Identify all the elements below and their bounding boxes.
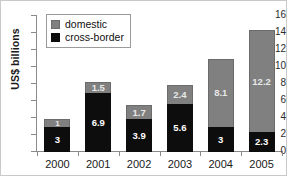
x-tick-mark	[200, 151, 201, 156]
bar-segment-domestic: 2.4	[167, 85, 193, 105]
chart-container: US$ billions 0246810121416 2000200120022…	[0, 0, 287, 176]
y-tick-mark	[31, 32, 36, 33]
x-tick-mark	[241, 151, 242, 156]
bar-value-label: 1.5	[92, 83, 105, 93]
x-tick-label: 2005	[237, 158, 287, 170]
bar-value-label: 2.3	[255, 137, 268, 147]
x-tick-mark	[282, 151, 283, 156]
legend-label-cross-border: cross-border	[65, 32, 124, 43]
bar-segment-cross-border: 5.6	[167, 104, 193, 152]
bar-value-label: 2.4	[173, 90, 186, 100]
bar-value-label: 5.6	[173, 123, 186, 133]
bar-stack: 2.45.6	[167, 85, 193, 151]
bar-value-label: 1.7	[132, 108, 145, 118]
bar-segment-domestic: 1.7	[126, 105, 152, 119]
bar-segment-cross-border: 3	[208, 127, 234, 153]
y-tick-mark	[31, 100, 36, 101]
y-tick-mark	[31, 66, 36, 67]
legend-swatch-cross-border-icon	[51, 33, 60, 42]
bar-segment-cross-border: 3	[44, 127, 70, 153]
bar-value-label: 3	[55, 135, 60, 145]
y-tick-mark	[31, 49, 36, 50]
y-axis-title: US$ billions	[9, 7, 21, 111]
legend-label-domestic: domestic	[65, 19, 107, 30]
y-tick-mark	[31, 83, 36, 84]
bar-stack: 1.73.9	[126, 105, 152, 151]
legend-swatch-domestic-icon	[51, 20, 60, 29]
bar-stack: 8.13	[208, 59, 234, 151]
bar-segment-cross-border: 2.3	[249, 132, 275, 152]
bar-value-label: 3	[218, 135, 223, 145]
chart-legend: domestic cross-border	[46, 14, 131, 48]
x-tick-mark	[119, 151, 120, 156]
y-tick-mark	[31, 117, 36, 118]
bar-stack: 13	[44, 119, 70, 151]
bar-stack: 12.22.3	[249, 30, 275, 151]
x-tick-mark	[37, 151, 38, 156]
bar-segment-domestic: 8.1	[208, 59, 234, 128]
bar-value-label: 12.2	[252, 77, 271, 87]
y-tick-mark	[31, 134, 36, 135]
x-tick-mark	[160, 151, 161, 156]
bar-value-label: 6.9	[92, 118, 105, 128]
bar-segment-cross-border: 6.9	[85, 93, 111, 152]
y-tick-mark	[31, 151, 36, 152]
y-tick-mark	[31, 15, 36, 16]
x-tick-mark	[78, 151, 79, 156]
legend-item-cross-border: cross-border	[51, 31, 124, 44]
bar-segment-cross-border: 3.9	[126, 119, 152, 152]
legend-item-domestic: domestic	[51, 18, 124, 31]
bar-value-label: 8.1	[214, 88, 227, 98]
bar-value-label: 3.9	[132, 131, 145, 141]
bar-stack: 1.56.9	[85, 82, 111, 151]
bar-segment-domestic: 12.2	[249, 30, 275, 134]
